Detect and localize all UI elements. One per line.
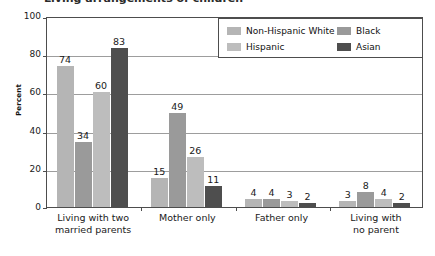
x-category-label: Mother only (140, 212, 234, 224)
bar-rect (205, 186, 222, 207)
bar-chart: Living arrangements of children Percent … (0, 0, 435, 256)
bar[interactable]: 49 (169, 18, 186, 207)
bar-rect (111, 48, 128, 207)
bar-rect (93, 92, 110, 207)
bar-value-label: 11 (207, 175, 219, 185)
y-tick-label: 0 (15, 203, 41, 212)
bar[interactable]: 74 (57, 18, 74, 207)
x-category-line: Mother only (140, 212, 234, 224)
chart-legend: Non-Hispanic WhiteHispanicBlackAsian (218, 18, 423, 58)
bar-rect (169, 113, 186, 207)
bar[interactable]: 34 (75, 18, 92, 207)
legend-label: Asian (356, 42, 381, 52)
bar-value-label: 83 (113, 37, 125, 47)
x-category-line: Living with two (46, 212, 140, 224)
legend-item[interactable]: Black (337, 24, 380, 38)
bar-value-label: 4 (251, 188, 257, 198)
bar-value-label: 74 (59, 55, 71, 65)
legend-item[interactable]: Non-Hispanic White (227, 24, 335, 38)
bar-value-label: 8 (363, 181, 369, 191)
bar-rect (299, 203, 316, 207)
bar-rect (393, 203, 410, 207)
x-category-line: Father only (235, 212, 329, 224)
bar-value-label: 2 (399, 192, 405, 202)
bar-rect (245, 199, 262, 207)
bar-rect (375, 199, 392, 207)
chart-title-text: Living arrangements of children (44, 0, 264, 5)
x-category-label: Living withno parent (329, 212, 423, 236)
bar-rect (57, 66, 74, 207)
y-tick-label: 100 (15, 12, 41, 21)
bar-rect (75, 142, 92, 207)
legend-label: Non-Hispanic White (246, 26, 335, 36)
y-tick-label: 60 (15, 88, 41, 97)
bar-rect (263, 199, 280, 207)
legend-swatch (337, 43, 351, 51)
x-tickmark (330, 207, 331, 211)
bar-rect (339, 201, 356, 207)
legend-item[interactable]: Asian (337, 40, 381, 54)
bar-value-label: 60 (95, 81, 107, 91)
x-category-line: no parent (329, 224, 423, 236)
bar-value-label: 3 (345, 190, 351, 200)
y-tickmark (43, 208, 47, 209)
y-tick-label: 40 (15, 127, 41, 136)
legend-label: Black (356, 26, 380, 36)
bar-rect (281, 201, 298, 207)
bar-value-label: 2 (305, 192, 311, 202)
bar-rect (357, 192, 374, 207)
bar-value-label: 15 (153, 167, 165, 177)
bar-value-label: 4 (269, 188, 275, 198)
y-tick-label: 20 (15, 165, 41, 174)
x-category-line: married parents (46, 224, 140, 236)
bar-value-label: 49 (171, 102, 183, 112)
bar[interactable]: 60 (93, 18, 110, 207)
y-tick-label: 80 (15, 50, 41, 59)
bar[interactable]: 15 (151, 18, 168, 207)
chart-title-clipped: Living arrangements of children (44, 0, 264, 9)
bar-value-label: 3 (287, 190, 293, 200)
x-category-line: Living with (329, 212, 423, 224)
bar-value-label: 4 (381, 188, 387, 198)
x-category-label: Father only (235, 212, 329, 224)
legend-swatch (337, 27, 351, 35)
bar-rect (151, 178, 168, 207)
y-axis-tick-labels: 020406080100 (14, 0, 41, 256)
x-category-label: Living with twomarried parents (46, 212, 140, 236)
legend-item[interactable]: Hispanic (227, 40, 284, 54)
bar-value-label: 34 (77, 131, 89, 141)
bar-rect (187, 157, 204, 207)
bar[interactable]: 26 (187, 18, 204, 207)
legend-label: Hispanic (246, 42, 284, 52)
legend-swatch (227, 27, 241, 35)
bar[interactable]: 83 (111, 18, 128, 207)
bar-value-label: 26 (189, 146, 201, 156)
legend-swatch (227, 43, 241, 51)
x-axis-category-labels: Living with twomarried parentsMother onl… (46, 212, 423, 252)
x-tickmark (236, 207, 237, 211)
x-tickmark (141, 207, 142, 211)
